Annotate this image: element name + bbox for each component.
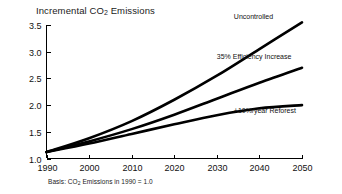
x-tick-label: 2020 <box>164 163 184 173</box>
y-tick-label: 1.5 <box>29 128 42 138</box>
chart-footnote-prefix: Basis: CO <box>48 178 78 185</box>
y-tick-label: 3.5 <box>29 21 42 31</box>
series-line <box>47 22 303 152</box>
series-label: +10%/year Reforest <box>234 107 296 115</box>
chart-figure: Incremental CO2 Emissions 1.01.52.02.53.… <box>0 0 342 194</box>
series-label: Uncontrolled <box>234 13 273 20</box>
x-tick-label: 2030 <box>207 163 227 173</box>
x-tick-label: 2000 <box>79 163 99 173</box>
chart-series-labels: Uncontrolled35% Efficiency Increase+10%/… <box>217 13 296 115</box>
y-tick-label: 3.0 <box>29 48 42 58</box>
chart-footnote: Basis: CO2 Emissions in 1990 = 1.0 <box>48 178 153 186</box>
x-tick-label: 2010 <box>122 163 142 173</box>
chart-plot-area: 1.01.52.02.53.03.5 199020002010202020302… <box>0 0 342 194</box>
x-tick-label: 2040 <box>249 163 269 173</box>
y-tick-label: 2.5 <box>29 74 42 84</box>
x-tick-label: 1990 <box>37 163 57 173</box>
series-label: 35% Efficiency Increase <box>217 53 292 61</box>
y-axis-ticks: 1.01.52.02.53.03.5 <box>29 21 51 165</box>
chart-footnote-suffix: Emissions in 1990 = 1.0 <box>81 178 153 185</box>
x-axis-ticks: 1990200020102020203020402050 <box>37 155 312 173</box>
y-tick-label: 2.0 <box>29 101 42 111</box>
x-tick-label: 2050 <box>292 163 312 173</box>
chart-series-group <box>47 22 303 152</box>
